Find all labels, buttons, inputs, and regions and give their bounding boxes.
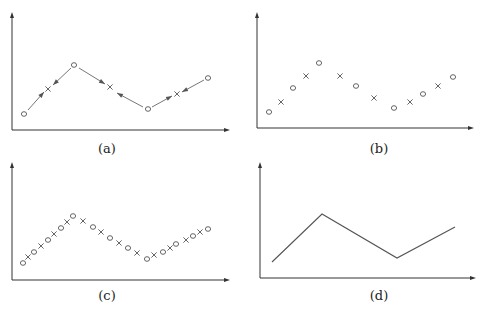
- cross-marker-icon: [183, 237, 188, 242]
- cross-marker-icon: [435, 83, 440, 88]
- cross-marker-icon: [174, 91, 179, 96]
- cross-marker-icon: [407, 99, 412, 104]
- cross-marker-icon: [116, 240, 121, 245]
- circle-marker-icon: [90, 225, 95, 230]
- panel-b: [255, 12, 474, 130]
- interpolation-arrow-icon: [152, 96, 172, 107]
- caption-d: (d): [370, 288, 388, 303]
- caption-c: (c): [98, 288, 115, 303]
- circle-marker-icon: [420, 92, 425, 97]
- circle-marker-icon: [145, 107, 150, 112]
- panel-d: [258, 162, 476, 280]
- y-axis-arrow-icon: [10, 162, 14, 168]
- interpolation-arrow-icon: [79, 68, 105, 84]
- cross-marker-icon: [98, 229, 103, 234]
- circle-marker-icon: [20, 261, 25, 266]
- x-axis-arrow-icon: [470, 276, 476, 280]
- cross-marker-icon: [197, 229, 202, 234]
- panel-c: [10, 162, 230, 282]
- interpolation-arrow-icon: [53, 68, 71, 85]
- circle-marker-icon: [31, 250, 36, 255]
- cross-marker-icon: [278, 99, 283, 104]
- cross-marker-icon: [38, 243, 43, 248]
- circle-marker-icon: [290, 86, 295, 91]
- x-axis-arrow-icon: [468, 126, 474, 130]
- circle-marker-icon: [391, 106, 396, 111]
- circle-marker-icon: [21, 112, 26, 117]
- circle-marker-icon: [70, 214, 75, 219]
- cross-marker-icon: [45, 86, 50, 91]
- cross-marker-icon: [25, 254, 30, 259]
- caption-b: (b): [370, 141, 388, 156]
- cross-marker-icon: [151, 252, 156, 257]
- cross-marker-icon: [134, 250, 139, 255]
- circle-marker-icon: [144, 257, 149, 262]
- figure-canvas: [0, 0, 483, 316]
- circle-marker-icon: [71, 63, 76, 68]
- circle-marker-icon: [190, 234, 195, 239]
- cross-marker-icon: [337, 73, 342, 78]
- circle-marker-icon: [205, 227, 210, 232]
- y-axis-arrow-icon: [255, 12, 259, 18]
- circle-marker-icon: [160, 250, 165, 255]
- cross-marker-icon: [107, 84, 112, 89]
- circle-marker-icon: [45, 238, 50, 243]
- x-axis-arrow-icon: [224, 128, 230, 132]
- caption-a: (a): [98, 141, 116, 156]
- circle-marker-icon: [205, 76, 210, 81]
- interpolation-arrow-icon: [28, 92, 44, 110]
- circle-marker-icon: [266, 110, 271, 115]
- circle-marker-icon: [58, 226, 63, 231]
- cross-marker-icon: [80, 218, 85, 223]
- cross-marker-icon: [51, 231, 56, 236]
- circle-marker-icon: [173, 242, 178, 247]
- circle-marker-icon: [107, 236, 112, 241]
- circle-marker-icon: [353, 84, 358, 89]
- cross-marker-icon: [64, 219, 69, 224]
- circle-marker-icon: [450, 75, 455, 80]
- y-axis-arrow-icon: [258, 162, 262, 168]
- interpolation-arrow-icon: [182, 80, 204, 92]
- cross-marker-icon: [303, 73, 308, 78]
- panel-a: [10, 12, 230, 132]
- cross-marker-icon: [371, 95, 376, 100]
- data-line: [272, 214, 455, 262]
- y-axis-arrow-icon: [10, 12, 14, 18]
- interpolation-arrow-icon: [117, 93, 143, 107]
- circle-marker-icon: [125, 246, 130, 251]
- cross-marker-icon: [167, 245, 172, 250]
- x-axis-arrow-icon: [224, 278, 230, 282]
- circle-marker-icon: [316, 61, 321, 66]
